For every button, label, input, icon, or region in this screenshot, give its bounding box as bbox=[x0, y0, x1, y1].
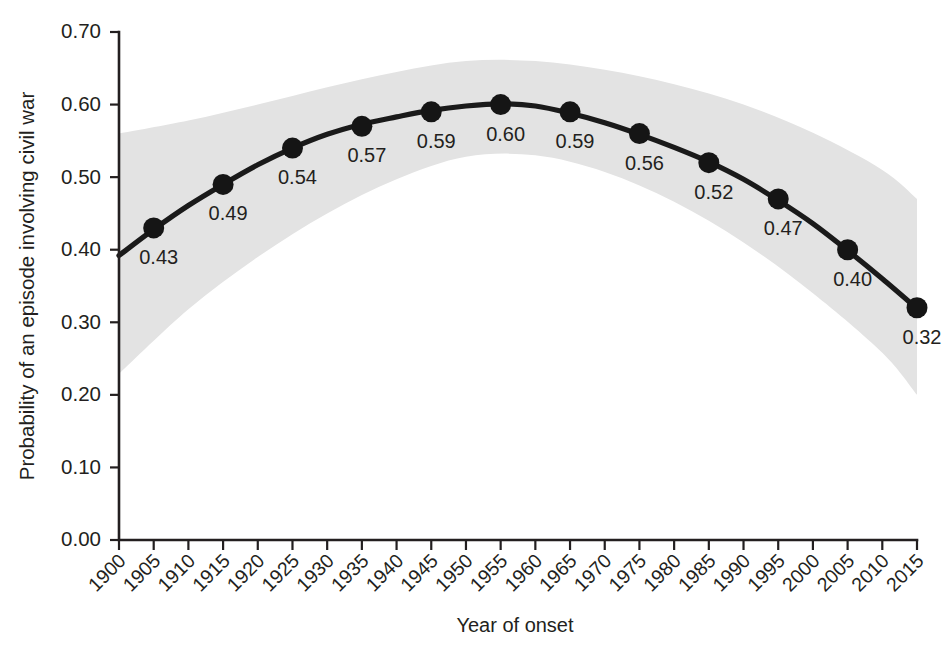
chart-figure: 0.430.490.540.570.590.600.590.560.520.47… bbox=[0, 0, 943, 660]
x-axis-tick-label: 1985 bbox=[673, 549, 719, 595]
x-axis-tick-label: 1980 bbox=[639, 549, 685, 595]
x-axis-tick-label: 1905 bbox=[118, 549, 164, 595]
data-point-marker bbox=[629, 123, 650, 144]
x-axis-tick-label: 1920 bbox=[222, 549, 268, 595]
data-point-label: 0.43 bbox=[139, 246, 178, 268]
chart-canvas: 0.430.490.540.570.590.600.590.560.520.47… bbox=[0, 0, 943, 660]
x-axis-tick-label: 2015 bbox=[882, 549, 928, 595]
data-point-label: 0.40 bbox=[833, 268, 872, 290]
data-point-marker bbox=[698, 152, 719, 173]
data-point-marker bbox=[560, 101, 581, 122]
x-axis-tick-label: 2005 bbox=[812, 549, 858, 595]
x-axis-tick-label: 1910 bbox=[153, 549, 199, 595]
y-axis-tick-label: 0.40 bbox=[61, 237, 101, 260]
x-axis-tick-label: 2000 bbox=[778, 549, 824, 595]
data-point-label: 0.59 bbox=[417, 130, 456, 152]
data-point-label: 0.60 bbox=[486, 123, 525, 145]
y-axis-tick-label: 0.30 bbox=[61, 310, 101, 333]
x-axis-tick-label: 1930 bbox=[292, 549, 338, 595]
x-axis-tick-label: 1900 bbox=[84, 549, 130, 595]
data-point-marker bbox=[282, 138, 303, 159]
x-axis-tick-label: 1935 bbox=[326, 549, 372, 595]
x-axis-title: Year of onset bbox=[456, 614, 574, 636]
data-point-marker bbox=[907, 297, 928, 318]
y-axis-tick-label: 0.70 bbox=[61, 19, 101, 42]
x-axis-tick-label: 2010 bbox=[847, 549, 893, 595]
data-point-marker bbox=[768, 188, 789, 209]
x-axis-tick-label: 1950 bbox=[431, 549, 477, 595]
x-axis-ticks bbox=[119, 540, 917, 550]
data-point-marker bbox=[837, 239, 858, 260]
data-point-label: 0.47 bbox=[764, 217, 803, 239]
y-axis-tick-labels: 0.000.100.200.300.400.500.600.70 bbox=[61, 19, 101, 550]
x-axis-tick-labels: 1900190519101915192019251930193519401945… bbox=[84, 549, 928, 595]
data-point-label: 0.59 bbox=[556, 130, 595, 152]
x-axis-tick-label: 1955 bbox=[465, 549, 511, 595]
x-axis-tick-label: 1995 bbox=[743, 549, 789, 595]
x-axis-tick-label: 1915 bbox=[188, 549, 234, 595]
data-point-marker bbox=[490, 94, 511, 115]
x-axis-tick-label: 1925 bbox=[257, 549, 303, 595]
y-axis-tick-label: 0.00 bbox=[61, 527, 101, 550]
y-axis-ticks bbox=[110, 32, 119, 540]
x-axis-tick-label: 1945 bbox=[396, 549, 442, 595]
y-axis-tick-label: 0.50 bbox=[61, 165, 101, 188]
x-axis-tick-label: 1990 bbox=[708, 549, 754, 595]
data-point-label: 0.52 bbox=[694, 181, 733, 203]
x-axis-tick-label: 1960 bbox=[500, 549, 546, 595]
data-point-label: 0.54 bbox=[278, 166, 317, 188]
data-point-label: 0.49 bbox=[209, 202, 248, 224]
data-point-label: 0.57 bbox=[347, 144, 386, 166]
x-axis-tick-label: 1970 bbox=[569, 549, 615, 595]
data-point-label: 0.32 bbox=[903, 326, 942, 348]
x-axis-tick-label: 1940 bbox=[361, 549, 407, 595]
data-point-marker bbox=[213, 174, 234, 195]
data-point-label: 0.56 bbox=[625, 152, 664, 174]
y-axis-title: Probability of an episode involving civi… bbox=[15, 92, 38, 481]
y-axis-tick-label: 0.20 bbox=[61, 382, 101, 405]
data-point-marker bbox=[351, 116, 372, 137]
x-axis-tick-label: 1965 bbox=[535, 549, 581, 595]
x-axis-tick-label: 1975 bbox=[604, 549, 650, 595]
data-point-marker bbox=[143, 217, 164, 238]
y-axis-tick-label: 0.60 bbox=[61, 92, 101, 115]
data-point-marker bbox=[421, 101, 442, 122]
y-axis-tick-label: 0.10 bbox=[61, 455, 101, 478]
